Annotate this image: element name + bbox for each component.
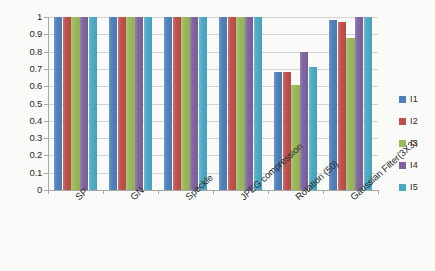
bar	[199, 17, 207, 190]
bar	[63, 17, 71, 190]
bar	[173, 17, 181, 190]
bar	[54, 17, 62, 190]
y-axis-tick-mark	[44, 86, 48, 87]
y-axis-tick-mark	[44, 104, 48, 105]
y-axis-tick-label: 0.7	[0, 63, 42, 74]
bar	[254, 17, 262, 190]
y-axis-tick-mark	[44, 138, 48, 139]
bar-chart: 10.90.80.70.60.50.40.30.20.10 SPGNSpeckl…	[0, 0, 435, 271]
y-axis-tick-label: 1	[0, 11, 42, 22]
legend-label: I3	[410, 138, 418, 148]
x-axis-tick-mark	[48, 190, 49, 194]
legend-swatch-icon	[399, 118, 406, 125]
bar	[236, 17, 244, 190]
bar	[126, 17, 134, 190]
bar	[164, 17, 172, 190]
bar	[364, 17, 372, 190]
bar	[135, 17, 143, 190]
bar	[291, 85, 299, 190]
bar	[300, 52, 308, 190]
bar-group	[213, 17, 268, 190]
y-axis-tick-mark	[44, 121, 48, 122]
legend-label: I1	[410, 94, 418, 104]
bar	[245, 17, 253, 190]
legend-label: I4	[410, 160, 418, 170]
y-axis-tick-label: 0.9	[0, 28, 42, 39]
bar	[190, 17, 198, 190]
bar-group	[158, 17, 213, 190]
x-axis-tick-mark	[103, 190, 104, 194]
chart-legend: I1I2I3I4I5	[399, 88, 433, 198]
y-axis-tick-label: 0.6	[0, 80, 42, 91]
legend-item[interactable]: I1	[399, 88, 433, 110]
y-axis-tick-label: 0.1	[0, 167, 42, 178]
y-axis-tick-mark	[44, 173, 48, 174]
y-axis-tick-label: 0	[0, 184, 42, 195]
bar	[109, 17, 117, 190]
y-axis-tick-mark	[44, 52, 48, 53]
legend-swatch-icon	[399, 140, 406, 147]
legend-swatch-icon	[399, 184, 406, 191]
x-axis-tick-mark	[378, 190, 379, 194]
bar	[355, 17, 363, 190]
legend-swatch-icon	[399, 96, 406, 103]
bar-group	[103, 17, 158, 190]
bar	[71, 17, 79, 190]
legend-item[interactable]: I5	[399, 176, 433, 198]
bar	[144, 17, 152, 190]
y-axis-tick-label: 0.2	[0, 149, 42, 160]
y-axis-tick-mark	[44, 17, 48, 18]
bar	[181, 17, 189, 190]
bar	[346, 38, 354, 190]
legend-label: I5	[410, 182, 418, 192]
bar	[228, 17, 236, 190]
bar-group	[48, 17, 103, 190]
bar	[80, 17, 88, 190]
y-axis-tick-mark	[44, 69, 48, 70]
x-axis-tick-mark	[268, 190, 269, 194]
bar	[89, 17, 97, 190]
x-axis-tick-mark	[158, 190, 159, 194]
bar	[219, 17, 227, 190]
x-axis-tick-mark	[213, 190, 214, 194]
bar	[309, 67, 317, 190]
legend-label: I2	[410, 116, 418, 126]
bar	[118, 17, 126, 190]
legend-item[interactable]: I4	[399, 154, 433, 176]
y-axis-tick-label: 0.8	[0, 46, 42, 57]
y-axis-tick-mark	[44, 155, 48, 156]
legend-item[interactable]: I2	[399, 110, 433, 132]
y-axis-line	[48, 17, 49, 190]
y-axis-tick-mark	[44, 34, 48, 35]
bar	[283, 72, 291, 191]
y-axis-tick-label: 0.5	[0, 98, 42, 109]
legend-swatch-icon	[399, 162, 406, 169]
y-axis-tick-label: 0.3	[0, 132, 42, 143]
legend-item[interactable]: I3	[399, 132, 433, 154]
y-axis-tick-label: 0.4	[0, 115, 42, 126]
x-axis-tick-mark	[323, 190, 324, 194]
